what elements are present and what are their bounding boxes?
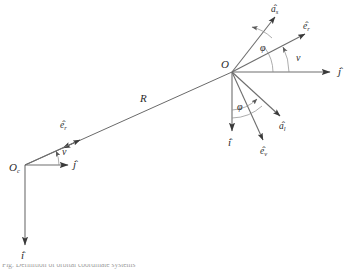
satellite-frame-e-r-label: ˆer [303,20,310,33]
satellite-frame-a-s-label: ˆas [271,3,279,16]
earth-frame-nu-label: ν [62,146,67,157]
figure-caption-strip: Fig. Definition of orbital coordinate sy… [0,264,357,273]
earth-frame-nu-arc [56,151,59,165]
satellite-frame-group: O ˆj ˆi ˆas ˆer ˆal ˆev φ ν φ [221,3,344,158]
satellite-frame-a-s-vector [232,17,275,72]
satellite-frame-nu-label: ν [296,52,301,63]
earth-frame-e-r-label: ˆer [60,119,67,132]
satellite-frame-i-label: ˆi [228,136,233,148]
earth-frame-i-label: ˆi [21,249,26,261]
satellite-frame-phi-label-upper: φ [260,42,266,53]
earth-frame-j-label: ˆj [71,158,79,170]
earth-frame-group: Oc ˆj ˆi ˆer ν [9,119,80,262]
figure-caption: Fig. Definition of orbital coordinate sy… [2,264,135,269]
orbital-coordinate-diagram: R Oc ˆj ˆi ˆer ν [0,0,357,273]
satellite-frame-origin-label: O [221,58,229,70]
satellite-frame-e-v-label: ˆev [260,145,267,158]
satellite-frame-phi-arc-upper [252,27,272,38]
earth-frame-origin-label: Oc [9,161,20,174]
satellite-frame-a-l-label: ˆal [279,120,286,133]
figure-container: R Oc ˆj ˆi ˆer ν [0,0,357,273]
earth-frame-e-r-vector [25,140,80,165]
satellite-frame-j-label: ˆj [336,65,344,77]
satellite-frame-nu-arc [283,47,289,72]
satellite-frame-phi-label-lower: φ [237,101,243,112]
radius-label: R [139,92,147,104]
